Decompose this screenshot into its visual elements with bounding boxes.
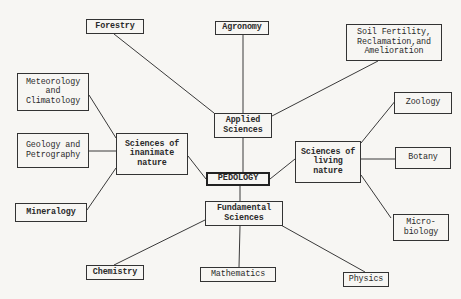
edge-living-zoology: [361, 100, 396, 143]
node-sciences-living-nature: Sciences of living nature: [295, 141, 361, 183]
edge-pedology-living: [270, 159, 295, 179]
node-applied-sciences: Applied Sciences: [214, 113, 272, 138]
node-zoology: Zoology: [394, 92, 452, 114]
edge-fundamental-physics: [279, 224, 365, 272]
edge-pedology-inanimate: [188, 156, 206, 179]
edge-applied-forestry: [114, 34, 214, 113]
node-agronomy: Agronomy: [215, 21, 269, 35]
node-sciences-inanimate-nature: Sciences of inanimate nature: [116, 133, 188, 175]
node-microbiology: Micro- biology: [393, 214, 449, 241]
node-botany: Botany: [395, 147, 451, 169]
node-meteorology-climatology: Meteorology and Climatology: [17, 73, 89, 111]
node-mathematics: Mathematics: [200, 267, 276, 282]
node-chemistry: Chemistry: [86, 265, 144, 280]
edge-inanimate-meteorology: [89, 95, 116, 138]
node-fundamental-sciences: Fundamental Sciences: [205, 201, 283, 226]
node-pedology: PEDOLOGY: [206, 172, 270, 186]
node-forestry: Forestry: [86, 19, 144, 34]
edge-fundamental-chemistry: [114, 220, 205, 265]
pedology-diagram: PEDOLOGY Applied Sciences Fundamental Sc…: [0, 0, 461, 299]
node-soil-fertility: Soil Fertility, Reclamation,and Ameliora…: [346, 24, 442, 61]
node-geology-petrography: Geology and Petrography: [17, 133, 89, 168]
edge-inanimate-mineralogy: [87, 168, 116, 210]
node-physics: Physics: [343, 272, 389, 287]
node-mineralogy: Mineralogy: [15, 203, 87, 222]
edge-living-microbiology: [361, 175, 391, 218]
edge-fundamental-mathematics: [239, 226, 240, 267]
edge-applied-soil: [272, 61, 378, 116]
